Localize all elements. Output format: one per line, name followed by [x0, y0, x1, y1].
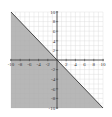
- y-tick-label: -10: [49, 106, 56, 111]
- y-tick-label: -4: [51, 77, 56, 82]
- y-tick-label: -2: [51, 67, 56, 72]
- y-tick-label: -6: [51, 87, 56, 92]
- x-tick-label: -4: [37, 62, 42, 67]
- inequality-graph: -10-8-6-4-2246810 108642-2-4-6-8-10: [0, 0, 112, 117]
- x-tick-label: -2: [46, 62, 51, 67]
- y-tick-label: 10: [50, 10, 56, 15]
- x-tick-label: 4: [74, 62, 77, 67]
- y-tick-label: -8: [51, 96, 56, 101]
- y-tick-label: 8: [53, 19, 56, 24]
- x-tick-label: 10: [101, 62, 107, 67]
- y-tick-label: 2: [53, 48, 56, 53]
- y-tick-label: 6: [53, 29, 56, 34]
- y-tick-label: 4: [53, 39, 56, 44]
- x-tick-label: -8: [18, 62, 23, 67]
- x-tick-label: 8: [93, 62, 96, 67]
- x-tick-label: 2: [65, 62, 68, 67]
- x-tick-label: -10: [8, 62, 15, 67]
- x-tick-label: -6: [27, 62, 32, 67]
- x-tick-label: 6: [83, 62, 86, 67]
